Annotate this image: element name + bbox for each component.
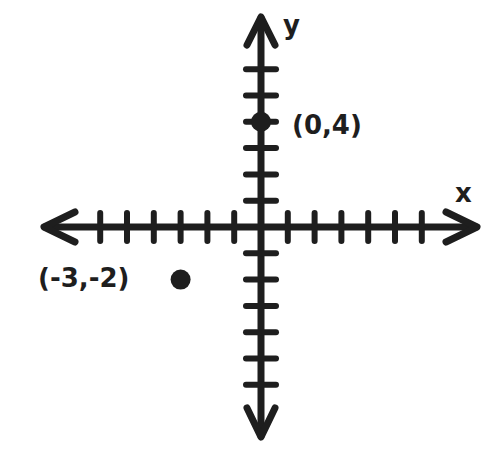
- x-axis-label: x: [455, 178, 472, 208]
- point-label-0-4: (0,4): [292, 110, 362, 140]
- coordinate-plane: [0, 0, 503, 456]
- point-label-neg3-neg2: (-3,-2): [38, 263, 129, 293]
- data-point: [251, 112, 271, 132]
- y-axis-label: y: [283, 10, 300, 40]
- data-point: [171, 270, 191, 290]
